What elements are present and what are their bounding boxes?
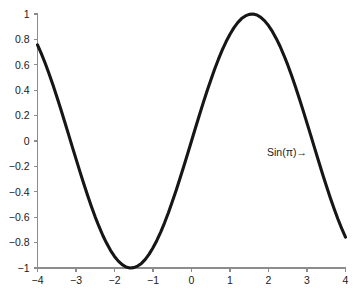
x-tick-label: 3 <box>304 274 310 286</box>
y-tick-label: −0.2 <box>9 160 30 172</box>
y-tick-label: −0.6 <box>9 211 30 223</box>
x-tick-label: −1 <box>147 274 159 286</box>
y-tick-label: −1 <box>18 262 30 274</box>
y-tick-label: 0.2 <box>15 109 30 121</box>
x-tick-label: 2 <box>266 274 272 286</box>
x-tick-label: 1 <box>227 274 233 286</box>
y-tick-label: −0.8 <box>9 236 30 248</box>
y-tick-label: −0.4 <box>9 186 30 198</box>
chart-annotations: Sin(π)→ <box>267 146 307 158</box>
y-tick-label: 0 <box>24 135 30 147</box>
x-tick-label: 4 <box>343 274 349 286</box>
figure-background <box>0 0 359 289</box>
x-tick-label: −3 <box>70 274 82 286</box>
y-tick-label: 0.4 <box>15 84 30 96</box>
x-tick-label: 0 <box>189 274 195 286</box>
y-tick-label: 1 <box>24 8 30 20</box>
y-tick-label: 0.6 <box>15 59 30 71</box>
x-tick-label: −4 <box>32 274 44 286</box>
sine-plot: −1−0.8−0.6−0.4−0.200.20.40.60.81 −4−3−2−… <box>0 0 359 289</box>
x-tick-label: −2 <box>109 274 121 286</box>
y-tick-label: 0.8 <box>15 33 30 45</box>
annotation-sin-label: Sin(π)→ <box>267 146 307 158</box>
chart-figure: −1−0.8−0.6−0.4−0.200.20.40.60.81 −4−3−2−… <box>0 0 359 289</box>
